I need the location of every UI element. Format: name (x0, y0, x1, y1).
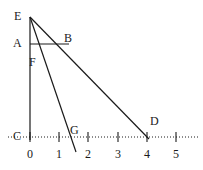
point-label-G: G (70, 124, 79, 136)
axis-tick-label-3: 3 (111, 148, 125, 160)
point-label-D: D (150, 115, 159, 127)
diagram-canvas (0, 0, 203, 170)
point-label-E: E (14, 10, 21, 22)
point-label-A: A (13, 37, 22, 49)
axis-tick-label-4: 4 (140, 148, 154, 160)
axis-tick-label-0: 0 (23, 148, 37, 160)
point-label-B: B (64, 32, 72, 44)
axis-tick-label-1: 1 (52, 148, 66, 160)
axis-tick-label-5: 5 (169, 148, 183, 160)
point-label-F: F (29, 56, 36, 68)
segment-ED (30, 17, 149, 139)
point-label-C: C (13, 130, 21, 142)
geometry-figure: E A B F C G D 0 1 2 3 4 5 (0, 0, 203, 170)
axis-tick-label-2: 2 (81, 148, 95, 160)
